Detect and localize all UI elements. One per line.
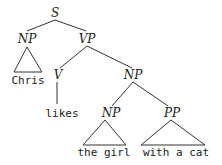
edge-s-vp	[55, 20, 86, 31]
word-with-a-cat: with a cat	[143, 146, 209, 159]
word-likes: likes	[45, 107, 78, 120]
word-chris: Chris	[11, 74, 44, 87]
edge-vp-v	[60, 46, 87, 68]
syntax-tree: S NP VP V NP NP PP Chris likes the girl …	[0, 0, 222, 165]
node-np-inner: NP	[101, 106, 122, 120]
edge-s-np	[27, 20, 55, 31]
node-v: V	[54, 68, 64, 82]
node-pp: PP	[163, 106, 181, 120]
word-the-girl: the girl	[78, 146, 131, 159]
edge-np-pp	[133, 82, 168, 106]
node-s: S	[51, 6, 59, 20]
node-vp: VP	[79, 32, 97, 46]
node-np-object: NP	[123, 68, 144, 82]
edge-vp-np	[87, 46, 132, 68]
node-np-subject: NP	[17, 32, 38, 46]
triangle-np-subject	[14, 47, 42, 72]
triangle-np-inner	[83, 120, 126, 145]
triangle-pp	[141, 120, 205, 145]
edge-np-np	[112, 82, 133, 106]
